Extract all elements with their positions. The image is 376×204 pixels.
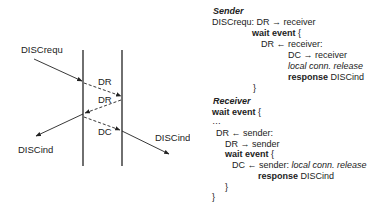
right-arrow-icon: → <box>241 139 250 149</box>
right-arrow-icon: → <box>304 50 313 60</box>
text: receiver: <box>286 39 323 49</box>
text: DISCrequ: DR <box>212 17 272 27</box>
sender-title: Sender <box>213 6 244 17</box>
left-arrow-icon: ← <box>232 128 241 138</box>
keyword: response <box>288 72 328 82</box>
protocol-pseudocode: Sender DISCrequ: DR → receiver wait even… <box>0 0 376 204</box>
left-arrow-icon: ← <box>248 160 257 170</box>
text: receiver <box>313 50 348 60</box>
text: { <box>269 149 275 159</box>
text: { <box>256 107 262 117</box>
sender-line-2: wait event { <box>252 28 301 39</box>
text: sender <box>250 139 280 149</box>
sender-line-5: local conn. release <box>288 61 363 72</box>
receiver-title: Receiver <box>213 96 251 107</box>
text: DISCind <box>298 171 334 181</box>
keyword: wait event <box>252 28 296 38</box>
keyword: wait event <box>225 149 269 159</box>
text: sender: <box>257 160 292 170</box>
sender-line-6: response DISCind <box>288 72 364 83</box>
text: DR <box>225 139 241 149</box>
text: DISCind <box>328 72 364 82</box>
receiver-line-3: DR ← sender: <box>216 128 273 139</box>
right-arrow-icon: → <box>272 17 281 27</box>
left-arrow-icon: ← <box>277 39 286 49</box>
sender-line-4: DC → receiver <box>288 50 347 61</box>
receiver-line-9: } <box>212 192 215 203</box>
text: DC <box>288 50 304 60</box>
receiver-line-6: DC ← sender: local conn. release <box>232 160 367 171</box>
text: DR <box>261 39 277 49</box>
text: receiver <box>281 17 316 27</box>
receiver-line-8: } <box>225 182 228 193</box>
receiver-line-7: response DISCind <box>258 171 334 182</box>
receiver-line-2: … <box>212 116 221 127</box>
text: sender: <box>241 128 274 138</box>
sender-line-7: } <box>253 83 256 94</box>
text: { <box>296 28 302 38</box>
text: DR <box>216 128 232 138</box>
receiver-line-5: wait event { <box>225 149 274 160</box>
keyword: response <box>258 171 298 181</box>
text: local conn. release <box>292 160 367 170</box>
text: DC <box>232 160 248 170</box>
sender-line-1: DISCrequ: DR → receiver <box>212 17 316 28</box>
sender-line-3: DR ← receiver: <box>261 39 323 50</box>
